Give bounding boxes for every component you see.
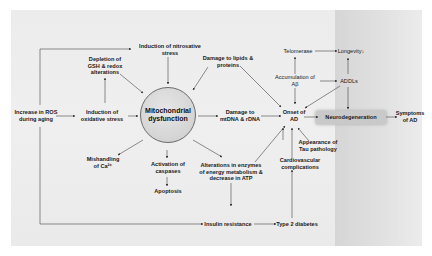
node-insulin-resistance: Insulin resistance xyxy=(204,221,251,228)
node-calcium-mishandling: Mishandling of Ca²⁺ xyxy=(87,156,120,169)
node-abeta-accumulation: Accumulation of Aβ xyxy=(275,74,315,87)
edges xyxy=(0,0,432,256)
node-apoptosis: Apoptosis xyxy=(154,188,181,195)
node-lipid-protein-damage: Damage to lipids & proteins xyxy=(203,55,253,68)
node-ros: Increase in ROS during aging xyxy=(15,109,58,122)
node-neurodegeneration: Neurodegeneration xyxy=(325,114,376,121)
node-type2-diabetes: Type 2 diabetes xyxy=(276,221,318,228)
node-energy-metabolism: Alterations in enzymes of energy metabol… xyxy=(199,162,262,182)
node-addls: ADDLs xyxy=(340,78,358,85)
central-node-label: Mitochondrial dysfunction xyxy=(145,107,191,124)
mitochondrial-dysfunction-node: Mitochondrial dysfunction xyxy=(140,87,196,143)
node-telomerase: Telomerase xyxy=(284,48,313,55)
node-ad-symptoms: Symptoms of AD xyxy=(396,110,425,123)
node-gsh-depletion: Depletion of GSH & redox alterations xyxy=(88,56,123,76)
node-mtdna-damage: Damage to mtDNA & rDNA xyxy=(220,109,260,122)
node-caspase-activation: Activation of caspases xyxy=(151,161,185,174)
node-tau-pathology: Appearance of Tau pathology xyxy=(299,139,338,152)
node-onset-ad: Onset of AD xyxy=(283,109,306,122)
node-cardiovascular: Cardiovascular complications xyxy=(280,157,320,170)
node-longevity: Longevity↓ xyxy=(338,48,365,55)
node-nitrosative-stress: Induction of nitrosative stress xyxy=(139,43,201,56)
node-oxidative-stress: Induction of oxidative stress xyxy=(81,109,123,122)
